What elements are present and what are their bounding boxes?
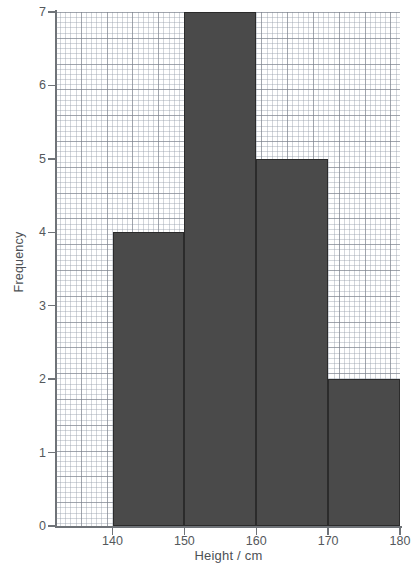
y-tick-label: 5	[0, 152, 46, 166]
histogram-bar	[328, 379, 400, 526]
y-tick-mark	[48, 305, 56, 306]
y-tick-label: 7	[0, 5, 46, 19]
y-tick-mark	[48, 452, 56, 453]
y-tick-label: 1	[0, 446, 46, 460]
y-tick-mark	[48, 378, 56, 379]
bar-series	[0, 0, 416, 572]
y-axis-line	[55, 10, 57, 528]
histogram-bar	[256, 159, 328, 526]
y-tick-mark	[48, 11, 56, 12]
y-tick-mark	[48, 158, 56, 159]
y-tick-label: 2	[0, 372, 46, 386]
y-axis-title: Frequency	[12, 217, 26, 307]
histogram-bar	[113, 232, 185, 526]
y-tick-mark	[48, 232, 56, 233]
y-tick-mark	[48, 525, 56, 526]
histogram-figure: 01234567 140150160170180 Frequency Heigh…	[0, 0, 416, 572]
x-axis-line	[55, 526, 402, 528]
x-tick-label: 150	[162, 534, 206, 548]
y-tick-mark	[48, 85, 56, 86]
histogram-bar	[184, 12, 256, 526]
x-tick-label: 180	[378, 534, 416, 548]
x-axis-title: Height / cm	[55, 548, 402, 563]
y-tick-label: 0	[0, 519, 46, 533]
y-tick-label: 6	[0, 78, 46, 92]
x-tick-label: 170	[306, 534, 350, 548]
x-tick-label: 160	[234, 534, 278, 548]
x-tick-label: 140	[91, 534, 135, 548]
